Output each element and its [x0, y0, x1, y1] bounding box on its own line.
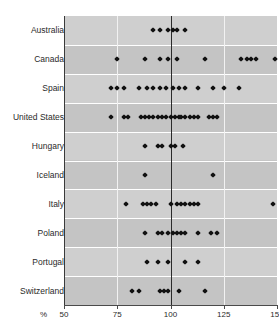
y-axis-label-canada: Canada — [0, 54, 64, 64]
x-axis-tick-label-100: 100 — [156, 310, 186, 320]
chart-title — [34, 0, 234, 4]
x-axis-tick-label-150: 150 — [262, 310, 279, 320]
y-axis-label-italy: Italy — [0, 199, 64, 209]
x-axis-unit-label: % — [40, 310, 47, 320]
x-axis-tick-100 — [171, 305, 172, 309]
y-axis-label-hungary: Hungary — [0, 141, 64, 151]
y-axis-label-iceland: Iceland — [0, 170, 64, 180]
x-axis-tick-label-50: 50 — [49, 310, 79, 320]
x-axis-tick-125 — [224, 305, 225, 309]
y-axis-label-united-states: United States — [0, 112, 64, 122]
y-axis-label-portugal: Portugal — [0, 257, 64, 267]
x-axis-tick-label-75: 75 — [102, 310, 132, 320]
y-axis-label-switzerland: Switzerland — [0, 286, 64, 296]
plot-area — [64, 16, 277, 305]
y-axis-spine — [64, 16, 65, 305]
y-axis-label-spain: Spain — [0, 83, 64, 93]
gridline-125 — [224, 16, 225, 305]
x-axis-tick-50 — [64, 305, 65, 309]
dot-chart: AustraliaCanadaSpainUnited StatesHungary… — [0, 0, 279, 332]
y-axis-label-australia: Australia — [0, 25, 64, 35]
y-axis-label-poland: Poland — [0, 228, 64, 238]
x-axis-tick-label-125: 125 — [209, 310, 239, 320]
x-axis-tick-150 — [277, 305, 278, 309]
x-axis-tick-75 — [117, 305, 118, 309]
